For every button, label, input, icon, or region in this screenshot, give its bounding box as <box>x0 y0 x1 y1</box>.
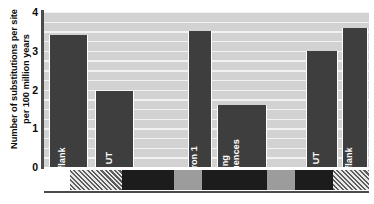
gene-segment-exon-1 <box>122 170 174 190</box>
gridline <box>44 22 369 23</box>
bar-label-line: Intron 1 <box>189 146 200 167</box>
gene-baseline <box>44 191 369 193</box>
bar-label: Intron 1 <box>189 146 200 167</box>
bar-label-line: Coding <box>220 139 231 167</box>
bar-chart-figure: Number of substitutions per site per 100… <box>0 0 374 204</box>
bar-3-flank[interactable]: 3' flank <box>342 28 368 168</box>
bar-label-line: 5' UT <box>104 152 115 167</box>
gene-structure-diagram <box>44 170 369 190</box>
bar-label-line: 3' UT <box>311 152 322 167</box>
gene-segment-exon-3 <box>295 170 333 190</box>
gridline <box>44 12 369 13</box>
y-axis-tick-labels: 43210 <box>24 0 38 204</box>
y-tick-3: 3 <box>24 46 38 56</box>
y-tick-0: 0 <box>24 162 38 172</box>
y-axis-title-line-1: Number of substitutions per site <box>8 9 20 149</box>
y-tick-2: 2 <box>24 85 38 95</box>
plot-area: 5' flank5' UTIntron 1Codingsequences3' U… <box>44 12 369 167</box>
gene-segment-exon-2 <box>202 170 267 190</box>
bar-3-ut[interactable]: 3' UT <box>306 51 338 167</box>
bar-coding-sequences[interactable]: Codingsequences <box>217 105 267 167</box>
gene-segment-intron-1 <box>174 170 202 190</box>
bar-5-flank[interactable]: 5' flank <box>49 35 88 167</box>
bar-label-line: 3' flank <box>344 147 355 167</box>
bar-5-ut[interactable]: 5' UT <box>95 91 134 167</box>
bar-label: 3' UT <box>311 152 322 167</box>
y-tick-4: 4 <box>24 7 38 17</box>
bar-label: 5' flank <box>57 147 68 167</box>
gene-segment-3-UT-region <box>333 170 369 190</box>
gene-segment-intron-2 <box>267 170 295 190</box>
bar-intron-1[interactable]: Intron 1 <box>188 31 212 167</box>
bar-label-line: sequences <box>231 139 242 167</box>
y-tick-1: 1 <box>24 123 38 133</box>
bar-label: 5' UT <box>104 152 115 167</box>
bar-label: Codingsequences <box>220 139 242 167</box>
bar-label-line: 5' flank <box>57 147 68 167</box>
bar-label: 3' flank <box>344 147 355 167</box>
gene-segment-5-flank-region <box>44 170 70 190</box>
gene-segment-5-UT-region <box>70 170 122 190</box>
